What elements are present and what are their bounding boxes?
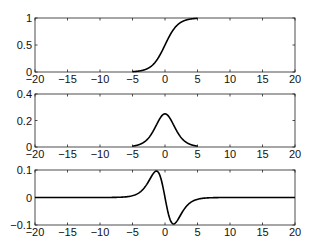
x-tick-label: 10 [224, 148, 236, 160]
x-tick-label: 15 [256, 148, 268, 160]
y-tick-label: 0.4 [17, 88, 32, 100]
chart-figure: −20−15−10−50510152000.51−20−15−10−505101… [0, 0, 315, 249]
y-tick-label: 1 [26, 12, 32, 24]
x-tick-label: 10 [224, 226, 236, 238]
x-tick-label: 0 [162, 73, 168, 85]
subplot-1: −20−15−10−50510152000.51 [17, 12, 301, 85]
x-tick-label: −10 [91, 148, 110, 160]
x-tick-label: 15 [256, 73, 268, 85]
x-tick-label: −5 [126, 73, 139, 85]
x-tick-label: −10 [91, 73, 110, 85]
series-line-sigmoid-second-derivative [35, 171, 295, 224]
y-tick-label: −0.1 [10, 219, 32, 231]
x-tick-label: 5 [194, 73, 200, 85]
x-tick-label: 5 [194, 226, 200, 238]
x-tick-label: 15 [256, 226, 268, 238]
x-tick-label: −5 [126, 148, 139, 160]
x-tick-label: 0 [162, 226, 168, 238]
x-tick-label: 5 [194, 148, 200, 160]
x-tick-label: 0 [162, 148, 168, 160]
x-tick-label: 20 [289, 148, 301, 160]
x-tick-label: −15 [58, 226, 77, 238]
y-tick-label: 0.1 [17, 164, 32, 176]
y-tick-label: 0.2 [17, 115, 32, 127]
x-tick-label: −15 [58, 148, 77, 160]
series-line-sigmoid [133, 18, 198, 71]
series-line-sigmoid-first-derivative [133, 114, 198, 146]
y-tick-label: 0 [26, 141, 32, 153]
y-tick-label: 0 [26, 192, 32, 204]
axes-frame [35, 94, 295, 147]
y-tick-label: 0.5 [17, 39, 32, 51]
x-tick-label: −5 [126, 226, 139, 238]
x-tick-label: −15 [58, 73, 77, 85]
x-tick-label: 20 [289, 73, 301, 85]
y-tick-label: 0 [26, 66, 32, 78]
subplot-2: −20−15−10−50510152000.20.4 [17, 88, 301, 160]
x-tick-label: −10 [91, 226, 110, 238]
subplot-3: −20−15−10−505101520−0.100.1 [10, 164, 301, 238]
x-tick-label: 20 [289, 226, 301, 238]
x-tick-label: 10 [224, 73, 236, 85]
